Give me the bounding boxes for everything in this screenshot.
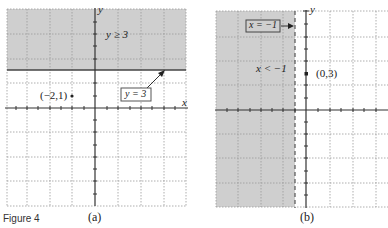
panel-a-boundary-label: y = 3 bbox=[125, 88, 146, 99]
panel-b-graph bbox=[215, 10, 388, 208]
panel-a-caption: (a) bbox=[88, 210, 101, 225]
panel-a-shaded-region bbox=[7, 9, 186, 70]
panel-b-boundary-label: x = −1 bbox=[249, 19, 277, 30]
panel-a-test-point bbox=[70, 94, 73, 97]
panel-b-test-point bbox=[305, 72, 309, 76]
panel-b-point-label: (0,3) bbox=[316, 67, 337, 79]
panel-b-y-axis-label: y bbox=[310, 3, 315, 15]
panel-b-region-label: x < −1 bbox=[256, 62, 287, 74]
panel-a-x-axis-label: x bbox=[182, 96, 187, 108]
figure-label: Figure 4 bbox=[3, 213, 40, 224]
panel-a-region-label: y ≥ 3 bbox=[106, 28, 128, 40]
panel-a-graph bbox=[5, 8, 188, 206]
panel-a-point-label: (−2,1) bbox=[40, 89, 67, 101]
figure-graphics bbox=[0, 0, 388, 228]
panel-b-caption: (b) bbox=[300, 210, 314, 225]
panel-a-y-axis-label: y bbox=[98, 3, 103, 15]
panel-a-arrow bbox=[145, 73, 162, 90]
